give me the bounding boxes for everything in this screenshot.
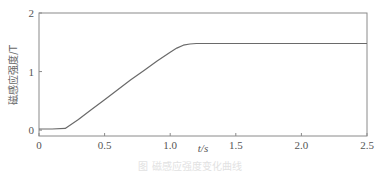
y-tick-label: 1 xyxy=(29,66,35,78)
x-axis-label: t/s xyxy=(198,142,208,154)
y-axis-label: 磁感应强度/T xyxy=(7,44,19,104)
x-tick-label: 2.5 xyxy=(360,139,374,151)
x-tick-label: 0.5 xyxy=(98,139,112,151)
x-tick-label: 1.0 xyxy=(163,139,177,151)
flux-density-chart: 00.51.01.52.02.5012 t/s 磁感应强度/T xyxy=(0,0,380,174)
x-tick-label: 0 xyxy=(36,139,42,151)
axis-ticks: 00.51.01.52.02.5012 xyxy=(29,7,375,151)
series-line xyxy=(39,44,367,130)
x-tick-label: 2.0 xyxy=(295,139,309,151)
plot-frame xyxy=(39,13,367,136)
y-tick-label: 0 xyxy=(29,124,35,136)
plot-border xyxy=(39,13,367,136)
figure-caption: 图 磁感应强度变化曲线 xyxy=(0,158,380,173)
y-tick-label: 2 xyxy=(29,7,35,19)
data-series xyxy=(39,44,367,130)
x-tick-label: 1.5 xyxy=(229,139,243,151)
